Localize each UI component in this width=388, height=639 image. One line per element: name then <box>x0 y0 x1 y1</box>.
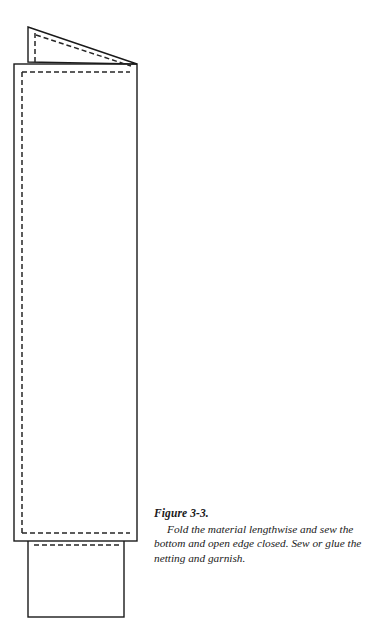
figure-caption-text: Fold the material lengthwise and sew the… <box>154 522 378 566</box>
figure-caption-label: Figure 3-3. <box>154 506 378 521</box>
figure-caption: Figure 3-3. Fold the material lengthwise… <box>154 506 378 565</box>
figure-page: Figure 3-3. Fold the material lengthwise… <box>0 0 388 639</box>
netting-panel-outline <box>28 538 124 617</box>
folded-flap-outline <box>28 27 137 64</box>
material-body-outline <box>14 64 137 541</box>
